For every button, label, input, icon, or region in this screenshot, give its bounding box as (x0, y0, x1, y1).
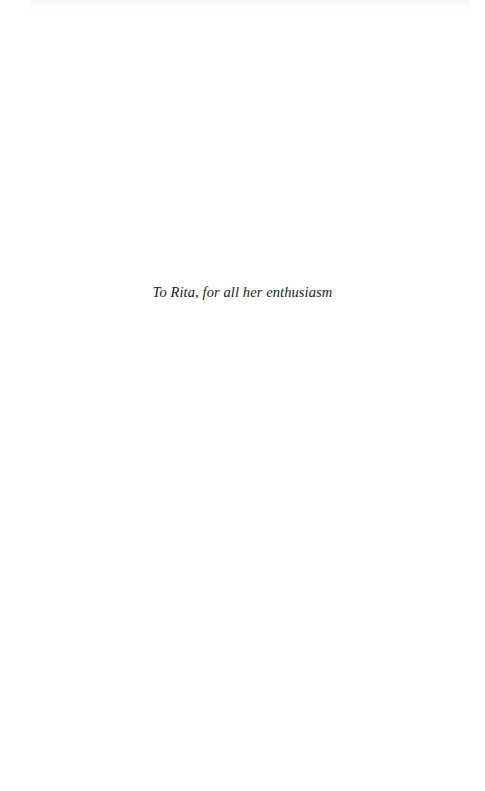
dedication-text: To Rita, for all her enthusiasm (0, 283, 485, 301)
scan-bleed-through (30, 0, 470, 10)
book-page: To Rita, for all her enthusiasm (0, 0, 485, 791)
